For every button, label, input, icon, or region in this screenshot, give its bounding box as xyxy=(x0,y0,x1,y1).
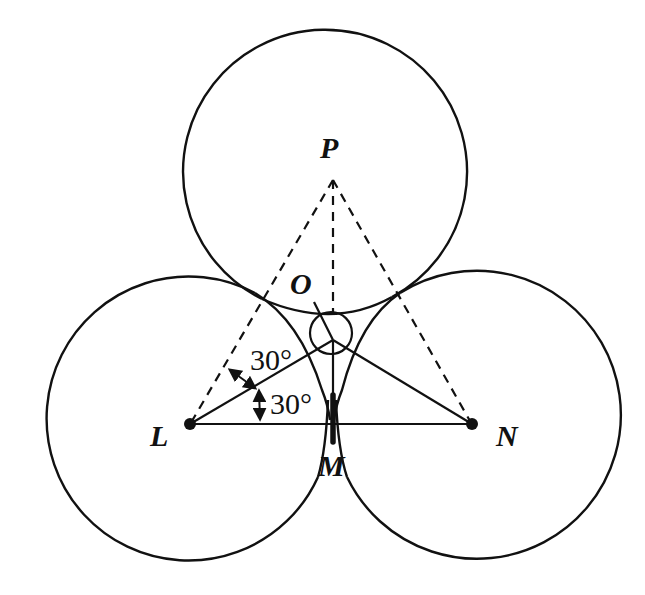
line-no xyxy=(333,340,472,424)
angle-arrows xyxy=(230,370,260,419)
label-o: O xyxy=(290,267,312,300)
dashed-pn xyxy=(333,180,470,421)
dashed-lines xyxy=(192,180,470,421)
label-p: P xyxy=(319,131,339,164)
label-angle-upper: 30° xyxy=(250,343,292,376)
point-n xyxy=(466,418,478,430)
circle-n xyxy=(347,271,621,559)
label-m: M xyxy=(317,449,346,482)
label-n: N xyxy=(495,419,519,452)
circle-p xyxy=(183,30,467,299)
label-l: L xyxy=(149,419,168,452)
line-o-label xyxy=(314,302,333,340)
point-l xyxy=(184,418,196,430)
angle-arrow-lower xyxy=(259,391,260,419)
label-angle-lower: 30° xyxy=(270,387,312,420)
geometry-diagram: P O L M N 30° 30° xyxy=(0,0,645,595)
